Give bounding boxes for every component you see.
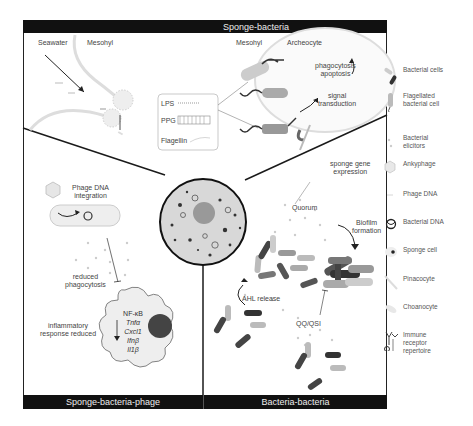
flagellated-cell-icon	[383, 92, 401, 112]
diagram-artwork	[0, 0, 473, 426]
legend-bacterial-cells: Bacterial cells	[383, 66, 473, 86]
label-mesohyl-left: Mesohyl	[87, 39, 113, 47]
gene-ifnb: Ifnβ	[122, 336, 144, 345]
label-sponge-gene-expression: sponge gene expression	[330, 160, 370, 176]
bacterial-cells-icon	[383, 66, 401, 86]
gene-tnfa: Tnfα	[122, 318, 144, 327]
sponge-cell-icon	[383, 246, 401, 266]
label-archeocyte: Archeocyte	[287, 39, 322, 47]
label-phage-dna-integration: Phage DNA integration	[72, 184, 109, 200]
gene-cxcl1: Cxcl1	[122, 327, 144, 336]
label-quorum: Quorum	[292, 204, 317, 212]
bacterial-dna-icon	[383, 218, 401, 238]
label-signal-transduction: signal transduction	[318, 92, 356, 108]
label-biofilm-formation: Biofilm formation	[352, 219, 381, 235]
label-reduced-phagocytosis: reduced phagocytosis	[65, 273, 106, 289]
label-qq-qsi: QQ/QSI	[296, 320, 321, 328]
legend-bacterial-dna: Bacterial DNA	[383, 218, 473, 238]
gene-il1b: Il1β	[122, 345, 144, 354]
legend-choanocyte: Choanocyte	[383, 303, 473, 323]
gene-list: NF-κB Tnfα Cxcl1 Ifnβ Il1β	[122, 309, 144, 354]
elicitor-flagellin: Flagellin	[161, 137, 187, 145]
elicitor-lps: LPS	[161, 100, 174, 108]
choanocyte-icon	[383, 303, 401, 323]
legend-bacterial-elicitors: Bacterial elicitors	[383, 134, 473, 154]
legend-ankyphage: Ankyphage	[383, 160, 473, 180]
label-ahl-release: AHL release	[242, 295, 280, 303]
ankyphage-icon	[383, 160, 401, 180]
archeocyte-cell	[255, 28, 395, 132]
label-seawater: Seawater	[38, 39, 68, 47]
label-inflammatory-response: inflammatory response reduced	[40, 322, 96, 338]
gene-nfkb: NF-κB	[122, 309, 144, 318]
elicitor-ppg: PPG	[161, 117, 176, 125]
label-phagocytosis-apoptosis: phagocytosis apoptosis	[315, 62, 356, 78]
immune-receptor-icon	[383, 331, 401, 351]
legend-sponge-cell: Sponge cell	[383, 246, 473, 266]
legend-pinacocyte: Pinacocyte	[383, 275, 473, 295]
legend-immune-receptor: Immune receptor repertoire	[383, 331, 473, 361]
phage-dna-icon	[383, 190, 401, 210]
legend-phage-dna: Phage DNA	[383, 190, 473, 210]
pinacocyte-icon	[383, 275, 401, 295]
label-mesohyl-right: Mesohyl	[236, 39, 262, 47]
elicitors-icon	[383, 134, 401, 154]
legend-flagellated-cell: Flagellated bacterial cell	[383, 92, 473, 112]
